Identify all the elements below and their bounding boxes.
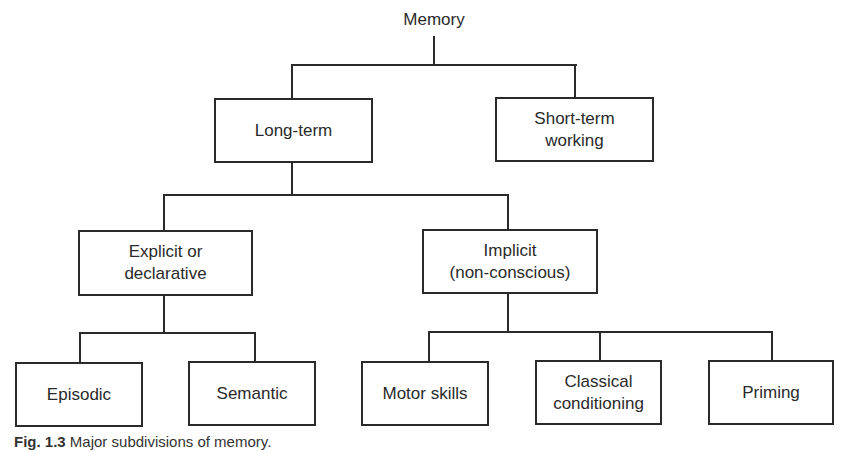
node-short-term-label-2: working <box>545 130 604 152</box>
node-priming: Priming <box>708 360 834 425</box>
connector-motor-skills <box>428 331 430 362</box>
connector-semantic <box>254 332 256 363</box>
connector-classical-conditioning <box>599 331 601 362</box>
node-classical-conditioning: Classical conditioning <box>535 360 662 425</box>
node-priming-label: Priming <box>742 382 800 404</box>
connector-explicit-bar <box>79 332 256 334</box>
node-short-term-label-1: Short-term <box>534 108 614 130</box>
connector-level2-bar <box>163 194 509 196</box>
connector-implicit-stem <box>507 293 509 333</box>
node-semantic-label: Semantic <box>217 383 288 405</box>
node-long-term: Long-term <box>214 98 373 163</box>
connector-explicit <box>163 194 165 232</box>
connector-implicit <box>507 194 509 231</box>
node-implicit-label-2: (non-conscious) <box>450 262 571 284</box>
node-memory: Memory <box>394 9 474 31</box>
node-implicit-non-conscious: Implicit (non-conscious) <box>422 229 598 294</box>
node-semantic: Semantic <box>188 361 316 426</box>
node-implicit-label-1: Implicit <box>484 240 537 262</box>
node-motor-skills: Motor skills <box>361 361 489 426</box>
connector-long-term-stem <box>291 162 293 196</box>
connector-short-term <box>574 64 576 99</box>
figure-number: Fig. 1.3 <box>14 433 66 450</box>
node-explicit-label-2: declarative <box>124 263 206 285</box>
node-motor-skills-label: Motor skills <box>382 383 467 405</box>
node-classical-label-1: Classical <box>564 371 632 393</box>
node-explicit-declarative: Explicit or declarative <box>78 230 253 296</box>
figure-caption-text: Major subdivisions of memory. <box>70 433 271 450</box>
node-episodic-label: Episodic <box>47 384 111 406</box>
node-classical-label-2: conditioning <box>553 393 644 415</box>
connector-level1-bar <box>291 64 577 66</box>
connector-memory-stem <box>433 36 435 66</box>
connector-explicit-stem <box>163 295 165 334</box>
node-episodic: Episodic <box>15 362 143 427</box>
figure-caption: Fig. 1.3 Major subdivisions of memory. <box>14 433 271 451</box>
node-long-term-label: Long-term <box>255 120 332 142</box>
connector-priming <box>771 331 773 362</box>
node-explicit-label-1: Explicit or <box>129 241 203 263</box>
connector-long-term <box>291 64 293 100</box>
node-short-term-working: Short-term working <box>495 97 654 162</box>
connector-episodic <box>79 332 81 364</box>
